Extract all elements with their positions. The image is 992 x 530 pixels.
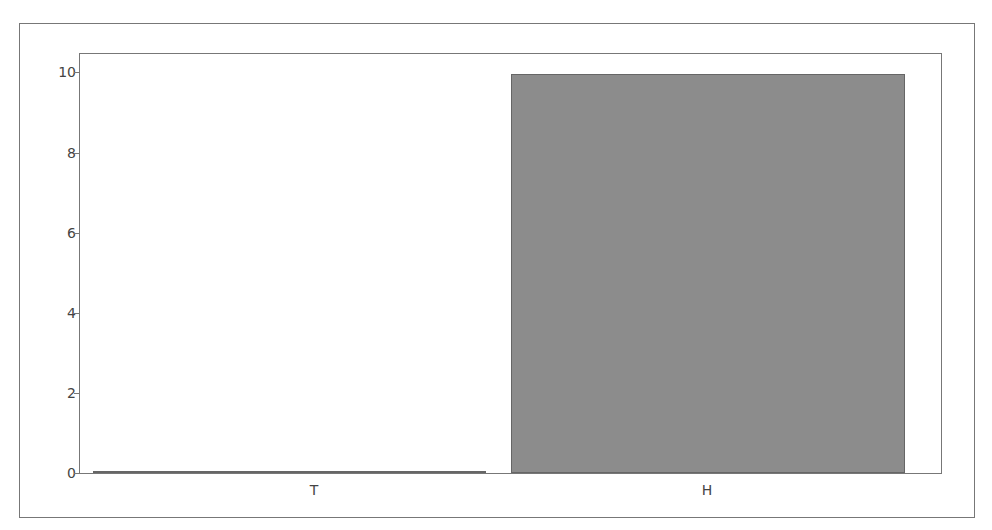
- plot-area: [79, 53, 942, 474]
- y-tick-mark: [74, 233, 79, 234]
- y-tick-mark: [74, 313, 79, 314]
- x-tick-label-H: H: [692, 482, 722, 498]
- y-tick-label: 6: [56, 225, 76, 241]
- bar-T: [93, 471, 486, 473]
- y-tick-label: 0: [56, 465, 76, 481]
- y-tick-mark: [74, 153, 79, 154]
- y-tick-label: 4: [56, 305, 76, 321]
- y-tick-label: 2: [56, 385, 76, 401]
- y-tick-label: 8: [56, 145, 76, 161]
- y-tick-mark: [74, 473, 79, 474]
- bar-H: [511, 74, 905, 473]
- y-tick-mark: [74, 393, 79, 394]
- y-tick-mark: [74, 72, 79, 73]
- x-tick-label-T: T: [299, 482, 329, 498]
- y-tick-label: 10: [56, 64, 76, 80]
